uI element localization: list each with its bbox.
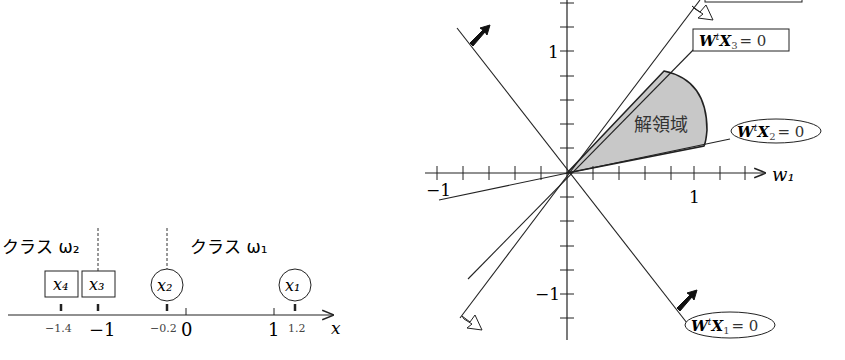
point-x3-label: x₃ <box>89 275 104 294</box>
black-arrow-upper-icon <box>470 25 490 46</box>
tick-label-0: 0 <box>181 319 192 340</box>
tick-label-1: 1 <box>268 319 279 340</box>
hollow-arrow-lower-icon <box>462 315 482 330</box>
tick-label-m0.2: −0.2 <box>150 322 177 335</box>
w1-tick-label-neg1: −1 <box>426 180 451 200</box>
weight-space-figure: 解領域 <box>425 0 821 340</box>
class-label-omega1: クラス ω₁ <box>190 237 267 257</box>
point-x1-label: x₁ <box>285 276 300 295</box>
w1-axis-label: w₁ <box>772 164 795 185</box>
class-label-omega2: クラス ω₂ <box>2 237 79 257</box>
hyperplane-x4 <box>460 0 700 318</box>
hyperplane-x3 <box>468 43 700 279</box>
solution-region-label: 解領域 <box>634 114 688 135</box>
hyperplane-x1 <box>457 28 687 323</box>
number-line-figure: x −1.4 −1 −0.2 0 1 1.2 クラス ω₂ クラス ω₁ x₄ … <box>2 228 341 340</box>
black-arrow-lower-icon <box>677 290 697 311</box>
figure-canvas: x −1.4 −1 −0.2 0 1 1.2 クラス ω₂ クラス ω₁ x₄ … <box>0 0 845 360</box>
equation-label-x4-box <box>705 0 802 2</box>
w2-tick-label-neg1: −1 <box>535 284 560 304</box>
point-x4-label: x₄ <box>53 275 68 294</box>
point-x2-label: x₂ <box>157 276 172 295</box>
w1-tick-label-1: 1 <box>689 187 700 207</box>
w2-tick-label-1: 1 <box>548 42 559 62</box>
tick-label-m1: −1 <box>89 319 116 340</box>
tick-label-1.2: 1.2 <box>288 322 306 335</box>
tick-label-m1.4: −1.4 <box>45 322 72 335</box>
x-axis-label: x <box>331 318 341 338</box>
